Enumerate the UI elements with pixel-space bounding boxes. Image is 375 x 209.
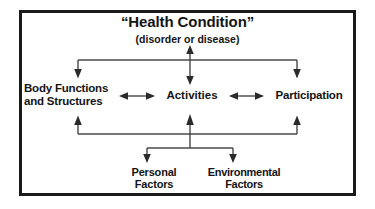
- node-health-condition-subtitle: (disorder or disease): [19, 34, 356, 46]
- node-participation: Participation: [262, 89, 356, 102]
- node-health-condition: “Health Condition”: [19, 14, 356, 31]
- node-personal-factors: Personal Factors: [116, 166, 192, 191]
- node-environmental-factors: Environmental Factors: [196, 166, 292, 191]
- icf-model-diagram: “Health Condition” (disorder or disease)…: [0, 0, 375, 209]
- node-activities: Activities: [152, 89, 232, 102]
- node-body-functions-and-structures: Body Functions and Structures: [24, 82, 132, 108]
